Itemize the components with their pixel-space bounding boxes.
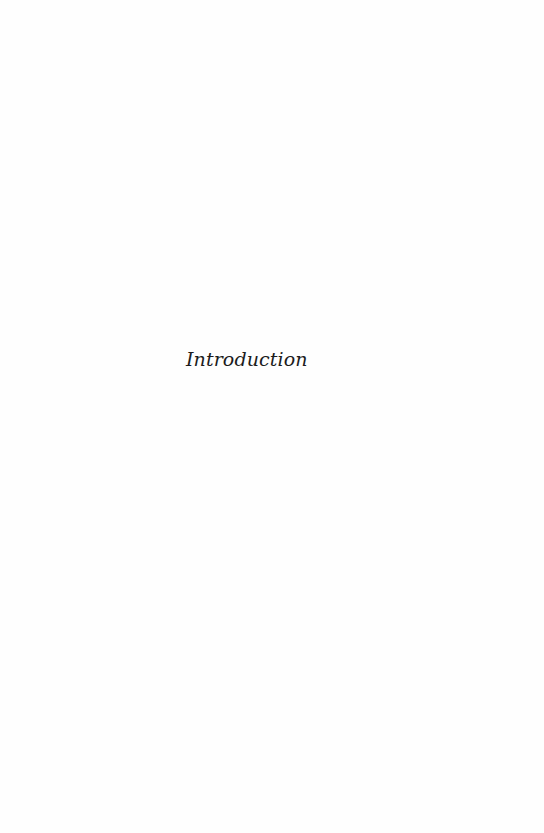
section-title: Introduction (186, 345, 308, 373)
book-page: Introduction (0, 0, 544, 833)
